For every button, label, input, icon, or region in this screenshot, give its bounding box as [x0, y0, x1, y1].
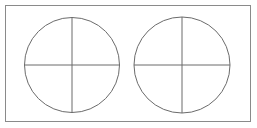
canvas-background [0, 0, 257, 128]
figure-canvas [0, 0, 257, 128]
left-circle-group [25, 18, 120, 113]
right-circle-group [134, 17, 230, 113]
diagram-svg [0, 0, 257, 128]
